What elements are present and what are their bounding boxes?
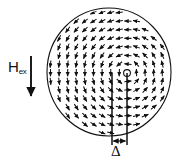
magnetization-arrow — [59, 78, 60, 85]
magnetization-arrow — [116, 106, 123, 108]
magnetization-arrow — [124, 81, 131, 82]
magnetization-arrow — [107, 28, 114, 31]
magnetization-arrow — [50, 78, 51, 85]
magnetization-arrow — [90, 19, 96, 23]
magnetization-arrow — [117, 79, 122, 84]
magnetization-arrow — [93, 61, 95, 68]
magnetization-arrow — [107, 106, 114, 109]
magnetization-arrow — [133, 97, 140, 100]
magnetization-arrow — [100, 87, 104, 93]
magnetization-arrow — [58, 44, 61, 51]
magnetization-arrow — [144, 61, 147, 67]
magnetization-arrow — [109, 61, 112, 67]
magnetization-arrow — [161, 87, 164, 94]
magnetization-arrow — [133, 46, 140, 48]
magnetization-arrow — [84, 61, 85, 68]
magnetization-arrow — [116, 88, 123, 91]
magnetization-arrow — [160, 96, 164, 102]
magnetization-arrow — [66, 35, 70, 41]
magnetization-arrow — [74, 35, 78, 41]
magnetization-arrow — [133, 115, 140, 117]
magnetization-arrow — [99, 36, 105, 40]
nanodisk-outline — [47, 8, 171, 136]
magnetization-arrow — [108, 53, 113, 58]
magnetization-arrow — [67, 78, 68, 85]
magnetization-arrow — [117, 62, 122, 67]
magnetization-arrow — [116, 54, 123, 57]
magnetization-arrow — [142, 114, 149, 117]
magnetization-arrow — [153, 61, 155, 68]
magnetization-arrow — [142, 37, 148, 40]
magnetization-arrow — [67, 61, 68, 68]
magnetization-arrow — [82, 27, 87, 32]
magnetization-arrow — [99, 28, 105, 32]
magnetization-arrow — [66, 104, 70, 110]
magnetization-arrow — [101, 78, 103, 85]
magnetization-arrow — [75, 52, 77, 59]
magnetization-arrow — [152, 52, 156, 58]
magnetization-arrow — [107, 114, 114, 117]
magnetization-arrow — [133, 37, 140, 39]
magnetization-arrow — [59, 61, 60, 68]
magnetization-arrow — [151, 44, 156, 49]
magnetization-arrow — [99, 20, 106, 23]
magnetization-arrow — [82, 19, 88, 24]
magnetization-arrow — [66, 44, 69, 51]
magnetization-arrow — [92, 52, 95, 58]
magnetization-arrow — [91, 96, 95, 102]
magnetization-arrow — [107, 20, 114, 22]
magnetization-arrow — [116, 124, 123, 125]
magnetization-arrow — [116, 29, 123, 30]
magnetization-arrow — [142, 105, 148, 108]
magnetization-arrow — [74, 27, 79, 32]
magnetization-arrow — [74, 113, 79, 119]
magnetization-arrow — [58, 86, 60, 93]
magnetization-arrow — [100, 53, 104, 59]
external-field-symbol: H — [8, 58, 19, 75]
vortex-vector-field-svg — [0, 0, 180, 165]
magnetization-arrow — [84, 78, 85, 85]
magnetization-arrow — [58, 52, 60, 59]
magnetization-arrow — [152, 87, 156, 93]
magnetization-arrow — [99, 114, 105, 118]
magnetization-arrow — [91, 28, 97, 32]
magnetization-arrow — [133, 54, 139, 57]
magnetization-arrow — [67, 86, 69, 93]
magnetization-arrow — [67, 52, 69, 59]
magnetization-arrow — [151, 96, 156, 101]
magnetization-arrow — [99, 105, 105, 109]
magnetization-arrow — [142, 96, 148, 100]
magnetization-arrow — [74, 104, 78, 110]
magnetization-arrow — [133, 106, 140, 108]
magnetization-arrow — [100, 44, 105, 49]
magnetization-arrow — [116, 97, 123, 99]
magnetization-arrow — [160, 44, 164, 50]
magnetization-arrow — [107, 123, 114, 125]
magnetization-arrow — [58, 95, 61, 102]
magnetization-arrow — [76, 61, 77, 68]
magnetization-arrow — [99, 132, 106, 135]
magnetization-arrow — [142, 28, 149, 31]
magnetization-arrow — [91, 105, 96, 110]
magnetization-arrow — [91, 36, 96, 41]
magnetization-arrow — [144, 78, 147, 85]
magnetization-arrow — [142, 45, 148, 49]
magnetization-arrow — [50, 61, 51, 68]
magnetization-arrow — [99, 11, 106, 14]
magnetization-arrow — [93, 78, 95, 85]
magnetization-arrow — [99, 123, 105, 126]
magnetization-arrow — [83, 36, 88, 42]
magnetization-arrow — [66, 27, 70, 33]
magnetization-arrow — [124, 64, 131, 65]
magnetization-arrow — [107, 12, 114, 14]
magnetization-arrow — [82, 113, 87, 118]
magnetization-arrow — [133, 29, 140, 31]
magnetization-arrow-grid — [50, 11, 164, 135]
magnetization-arrow — [151, 36, 157, 40]
magnetization-arrow — [84, 52, 87, 59]
magnetization-arrow — [134, 79, 139, 84]
magnetization-arrow — [101, 61, 103, 68]
magnetization-arrow — [116, 115, 123, 116]
magnetization-arrow — [75, 86, 77, 93]
magnetization-arrow — [116, 46, 123, 48]
